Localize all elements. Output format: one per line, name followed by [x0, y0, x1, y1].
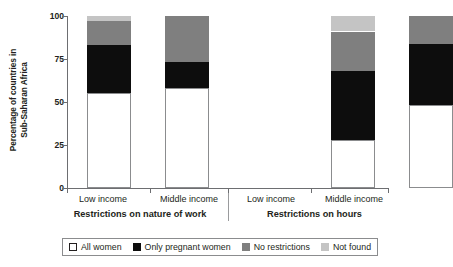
bar-0-segment-all-women	[87, 93, 131, 188]
y-tick-label-75: 75	[38, 54, 64, 64]
bar-0-segment-only-pregnant-women	[87, 45, 131, 93]
y-tick-label-50: 50	[38, 97, 64, 107]
legend-item-2[interactable]: No restrictions	[242, 242, 310, 252]
bar-3-segment-all-women	[409, 105, 453, 188]
y-tick-25	[62, 145, 67, 146]
bar-1-segment-only-pregnant-women	[165, 62, 209, 88]
x-tick-3	[311, 188, 312, 193]
y-tick-100	[62, 16, 67, 17]
y-axis-title-line2: Sub-Saharan Africa	[19, 49, 30, 152]
bar-3-segment-no-restrictions	[409, 16, 453, 44]
y-tick-50	[62, 102, 67, 103]
bar-0	[87, 16, 131, 188]
bar-2-segment-no-restrictions	[331, 32, 375, 72]
y-axis-title-line1: Percentage of countries in	[8, 49, 18, 152]
y-tick-label-100: 100	[38, 11, 64, 21]
chart-legend: All womenOnly pregnant womenNo restricti…	[62, 238, 378, 256]
legend-item-1[interactable]: Only pregnant women	[133, 242, 231, 252]
bar-2-segment-not-found	[331, 16, 375, 31]
bar-2-segment-only-pregnant-women	[331, 71, 375, 140]
legend-swatch-icon-1	[133, 243, 141, 251]
bar-3	[409, 16, 453, 188]
legend-label-2: No restrictions	[254, 242, 310, 252]
bar-3-segment-only-pregnant-women	[409, 44, 453, 106]
legend-item-3[interactable]: Not found	[321, 242, 371, 252]
bar-1	[165, 16, 209, 188]
x-tick-1	[150, 188, 151, 193]
legend-swatch-icon-0	[69, 243, 77, 251]
x-category-label-0: Low income	[62, 194, 144, 204]
plot-area	[67, 16, 389, 188]
x-category-label-1: Middle income	[143, 194, 235, 204]
legend-label-1: Only pregnant women	[145, 242, 231, 252]
y-axis-title: Percentage of countries in Sub-Saharan A…	[2, 0, 36, 200]
x-category-label-3: Middle income	[308, 194, 400, 204]
y-axis-line	[67, 16, 68, 189]
bar-0-segment-no-restrictions	[87, 21, 131, 45]
y-tick-label-25: 25	[38, 140, 64, 150]
bar-2	[331, 16, 375, 188]
x-category-label-2: Low income	[230, 194, 312, 204]
y-tick-75	[62, 59, 67, 60]
legend-label-3: Not found	[333, 242, 371, 252]
legend-item-0[interactable]: All women	[69, 242, 122, 252]
group-divider	[228, 193, 229, 221]
legend-swatch-icon-2	[242, 243, 250, 251]
bar-1-segment-no-restrictions	[165, 16, 209, 62]
bar-1-segment-all-women	[165, 88, 209, 188]
bar-2-segment-all-women	[331, 140, 375, 188]
x-group-label-0: Restrictions on nature of work	[52, 209, 228, 219]
x-group-label-1: Restrictions on hours	[232, 209, 397, 219]
x-tick-4	[388, 188, 389, 193]
legend-swatch-icon-3	[321, 243, 329, 251]
x-tick-0	[67, 188, 68, 193]
bar-0-segment-not-found	[87, 16, 131, 21]
legend-label-0: All women	[81, 242, 122, 252]
y-tick-label-0: 0	[38, 183, 64, 193]
